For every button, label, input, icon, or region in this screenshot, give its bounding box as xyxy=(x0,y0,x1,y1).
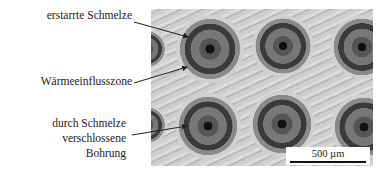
annotation-arrows xyxy=(0,0,389,174)
arrow-haz xyxy=(134,67,187,83)
arrow-hole xyxy=(132,126,187,135)
arrow-melt xyxy=(134,22,188,37)
